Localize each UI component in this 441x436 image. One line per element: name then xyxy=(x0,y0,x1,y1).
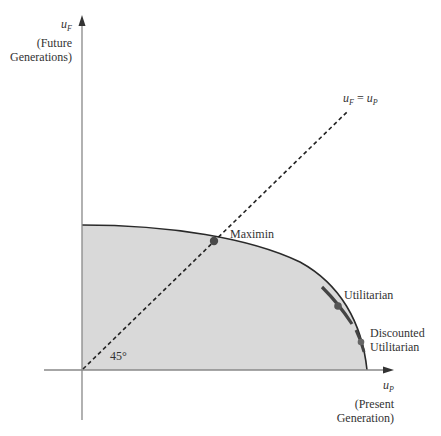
x-axis-label-line2: Generation) xyxy=(320,411,394,425)
discounted-utilitarian-label: Discounted Utilitarian xyxy=(370,326,425,354)
x-axis-label-line1: (Present xyxy=(320,397,394,411)
y-axis-label: uF (Future Generations) xyxy=(6,17,72,64)
utilitarian-point xyxy=(334,302,342,310)
y-axis-label-line1: (Future xyxy=(6,36,72,50)
eq-rhs-sub: P xyxy=(373,98,378,107)
x-axis-subscript: P xyxy=(389,385,394,394)
y-axis-arrow-icon xyxy=(79,15,86,26)
eq-lhs-sub: F xyxy=(349,98,354,107)
y-axis-subscript: F xyxy=(67,24,72,33)
equality-line-label: uF = uP xyxy=(343,91,378,110)
maximin-label: Maximin xyxy=(230,227,274,241)
discounted-label-line2: Utilitarian xyxy=(370,340,425,354)
x-axis-arrow-icon xyxy=(383,367,394,374)
y-axis-label-line2: Generations) xyxy=(6,50,72,64)
angle-label: 45° xyxy=(110,349,127,363)
x-axis-label: uP (Present Generation) xyxy=(320,378,394,425)
frontier-diagram xyxy=(0,0,441,436)
discounted-utilitarian-point xyxy=(358,339,365,346)
utilitarian-label: Utilitarian xyxy=(344,288,393,302)
eq-sign: = xyxy=(357,91,364,105)
maximin-point xyxy=(210,237,218,245)
discounted-label-line1: Discounted xyxy=(370,326,425,340)
